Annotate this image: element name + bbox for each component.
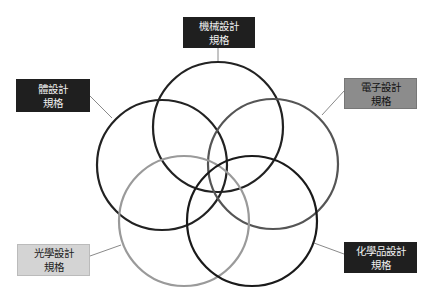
label-line2: 規格 [43, 96, 63, 110]
leader-line-electronic [322, 91, 344, 115]
circle-chemical [187, 156, 317, 286]
label-line2: 規格 [44, 260, 64, 274]
label-line1: 機械設計 [199, 19, 239, 33]
label-line1: 電子設計 [361, 80, 401, 94]
label-line2: 規格 [371, 258, 391, 272]
leader-lines [90, 48, 344, 256]
label-body-design-spec: 體設計 規格 [16, 79, 90, 112]
label-line2: 規格 [371, 94, 391, 108]
circle-optical [119, 156, 249, 286]
label-mechanical-design-spec: 機械設計 規格 [183, 17, 255, 48]
leader-line-optical [90, 245, 121, 256]
leader-line-body [90, 96, 112, 118]
leader-line-chemical [314, 243, 344, 254]
label-line1: 體設計 [38, 82, 68, 96]
label-optical-design-spec: 光學設計 規格 [17, 244, 90, 276]
label-line1: 化學品設計 [356, 244, 406, 258]
set-circles [97, 62, 338, 286]
label-line1: 光學設計 [34, 246, 74, 260]
label-electronic-design-spec: 電子設計 規格 [344, 78, 417, 109]
label-line2: 規格 [209, 33, 229, 47]
label-chemical-design-spec: 化學品設計 規格 [344, 242, 417, 273]
circle-mechanical [153, 62, 283, 192]
